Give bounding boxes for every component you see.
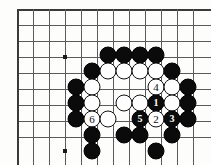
move-number-label: 2: [153, 113, 159, 124]
hoshi-lower-left: [63, 149, 67, 153]
grid-line-horizontal: [17, 41, 211, 42]
grid-line-horizontal: [17, 9, 211, 11]
grid-line-vertical: [49, 9, 50, 165]
stone-black-e: [84, 63, 101, 80]
hoshi-upper-left: [63, 55, 67, 59]
stone-white-c: [132, 63, 149, 80]
stone-white-i: [132, 95, 149, 112]
stone-black-f: [164, 63, 181, 80]
grid-line-vertical: [33, 9, 34, 165]
stone-black-r: [148, 143, 165, 160]
stone-white-b: [116, 63, 133, 80]
stone-black-move-5: 5: [132, 111, 149, 128]
stone-black-c: [132, 47, 149, 64]
stone-white-move-4: 4: [148, 79, 165, 96]
stone-black-l: [180, 111, 197, 128]
stone-white-j: [164, 95, 181, 112]
stone-white-move-6: 6: [84, 111, 101, 128]
stone-white-d: [148, 63, 165, 80]
stone-black-k: [68, 111, 85, 128]
grid-line-horizontal: [17, 25, 211, 26]
stone-white-h: [116, 95, 133, 112]
stone-white-a: [100, 63, 117, 80]
go-board-diagram: 416523: [0, 0, 211, 165]
stone-white-move-2: 2: [148, 111, 165, 128]
move-number-label: 5: [138, 114, 143, 124]
stone-white-e: [84, 79, 101, 96]
stone-black-a: [100, 47, 117, 64]
move-number-label: 4: [153, 81, 159, 92]
stone-black-o: [132, 127, 149, 144]
stone-black-j: [180, 95, 197, 112]
move-number-label: 1: [154, 98, 159, 108]
stone-black-m: [84, 127, 101, 144]
stone-black-d: [148, 47, 165, 64]
stone-white-k: [100, 111, 117, 128]
stone-white-g: [84, 95, 101, 112]
stone-black-g: [68, 79, 85, 96]
stone-black-move-1: 1: [148, 95, 165, 112]
grid-line-vertical: [65, 9, 66, 165]
stone-black-i: [68, 95, 85, 112]
stone-black-h: [180, 79, 197, 96]
stone-black-move-3: 3: [164, 111, 181, 128]
grid-line-vertical: [113, 9, 114, 165]
stone-black-p: [164, 127, 181, 144]
move-number-label: 3: [170, 114, 175, 124]
stone-black-n: [116, 127, 133, 144]
grid-line-vertical: [17, 9, 19, 165]
grid-line-horizontal: [17, 137, 211, 138]
move-number-label: 6: [89, 113, 95, 124]
stone-black-b: [116, 47, 133, 64]
stone-black-q: [84, 143, 101, 160]
stone-white-f: [164, 79, 181, 96]
